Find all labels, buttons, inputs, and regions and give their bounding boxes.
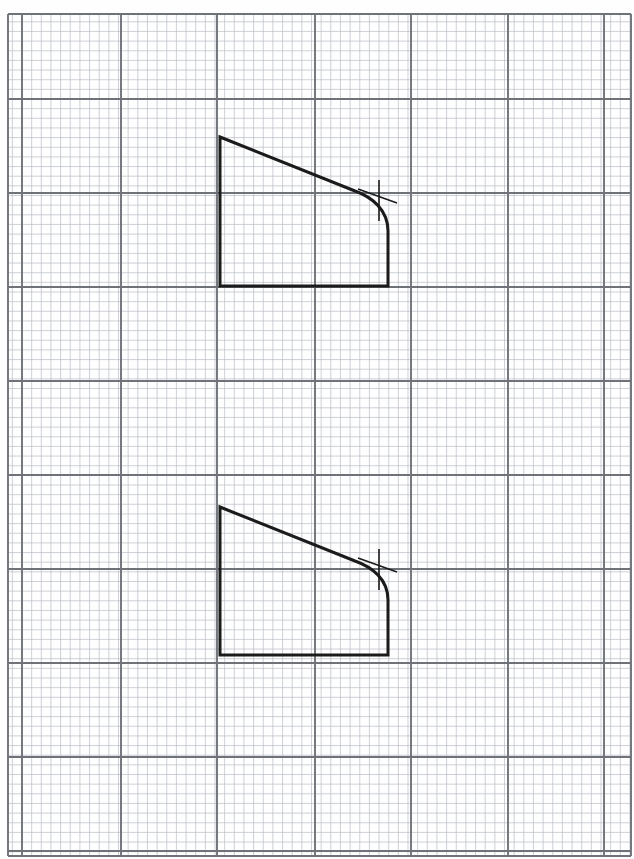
graph-paper-sheet: [0, 0, 634, 859]
paper-background: [0, 0, 634, 859]
drawing-canvas: [0, 0, 634, 859]
